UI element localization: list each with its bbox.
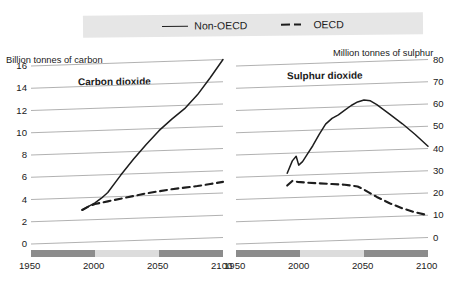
y-tick-label: 12	[3, 105, 27, 116]
dashed-line-icon	[281, 23, 307, 25]
y-tick-label: 50	[433, 120, 457, 131]
x-tick-label: 2100	[416, 260, 437, 271]
y-tick-label: 70	[433, 76, 457, 87]
x-tick-label: 2000	[83, 260, 104, 271]
y-tick-label: 10	[3, 127, 27, 138]
chart-panel-sulphur-dioxide	[236, 66, 428, 244]
y-tick-label: 20	[433, 187, 457, 198]
timeline-band	[236, 250, 428, 257]
timeline-band-segment	[95, 250, 159, 257]
timeline-band-segment	[236, 250, 300, 257]
y-tick-label: 8	[3, 149, 27, 160]
y-tick-label: 4	[3, 194, 27, 205]
timeline-band	[31, 250, 223, 257]
y-tick-label: 80	[433, 54, 457, 65]
legend-label-non-oecd: Non-OECD	[194, 19, 247, 32]
timeline-band-segment	[300, 250, 364, 257]
timeline-band-segment	[159, 250, 223, 257]
y-tick-label: 10	[433, 209, 457, 220]
y-tick-label: 16	[3, 60, 27, 71]
legend-item-non-oecd: Non-OECD	[162, 19, 247, 32]
solid-line-icon	[162, 25, 188, 26]
y-tick-label: 40	[433, 143, 457, 154]
y-tick-label: 0	[433, 232, 457, 243]
x-tick-label: 2050	[352, 260, 373, 271]
plot-area-sulphur-dioxide	[236, 66, 428, 244]
x-tick-label: 2050	[147, 260, 168, 271]
chart-panel-carbon-dioxide	[31, 66, 223, 244]
y-tick-label: 60	[433, 98, 457, 109]
y-tick-label: 2	[3, 216, 27, 227]
timeline-band-segment	[364, 250, 428, 257]
y-axis-title-right: Million tonnes of sulphur	[333, 48, 433, 58]
y-tick-label: 0	[3, 238, 27, 249]
x-tick-label: 1950	[19, 260, 40, 271]
x-tick-label: 1950	[224, 260, 245, 271]
plot-area-carbon-dioxide	[31, 66, 223, 244]
chart-legend: Non-OECD OECD	[83, 12, 423, 38]
y-tick-label: 6	[3, 171, 27, 182]
x-tick-label: 2000	[288, 260, 309, 271]
legend-label-oecd: OECD	[313, 18, 343, 30]
timeline-band-segment	[31, 250, 95, 257]
y-tick-label: 14	[3, 82, 27, 93]
y-tick-label: 30	[433, 165, 457, 176]
legend-item-oecd: OECD	[281, 18, 343, 31]
